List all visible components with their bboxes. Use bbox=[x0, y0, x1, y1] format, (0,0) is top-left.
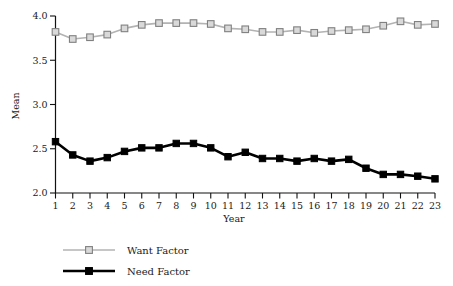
series-marker bbox=[294, 27, 301, 34]
series-marker bbox=[190, 140, 196, 146]
series-marker bbox=[346, 156, 352, 162]
chart-legend: Want FactorNeed Factor bbox=[63, 245, 190, 277]
x-tick-label: 11 bbox=[222, 200, 234, 211]
series-marker bbox=[208, 145, 214, 151]
series-line bbox=[56, 142, 436, 179]
y-tick-label: 3.5 bbox=[32, 55, 47, 66]
series-marker bbox=[259, 29, 266, 36]
x-tick-label: 9 bbox=[190, 200, 196, 211]
x-tick-label: 23 bbox=[429, 200, 441, 211]
series-marker bbox=[121, 148, 127, 154]
series-marker bbox=[432, 176, 438, 182]
x-tick-label: 14 bbox=[274, 200, 286, 211]
y-axis-ticks bbox=[50, 16, 56, 193]
series-marker bbox=[52, 29, 59, 36]
series-marker bbox=[397, 18, 404, 25]
series-marker bbox=[87, 158, 93, 164]
series-marker bbox=[121, 25, 128, 32]
x-tick-label: 7 bbox=[156, 200, 162, 211]
x-tick-label: 2 bbox=[70, 200, 76, 211]
series-marker bbox=[277, 155, 283, 161]
series-marker bbox=[311, 30, 318, 37]
y-tick-label: 3.0 bbox=[32, 99, 47, 110]
y-axis-title: Mean bbox=[10, 92, 21, 119]
x-tick-label: 8 bbox=[173, 200, 179, 211]
chart-series-need-factor bbox=[52, 138, 438, 182]
series-marker bbox=[52, 138, 58, 144]
legend-label: Want Factor bbox=[127, 245, 189, 256]
series-marker bbox=[328, 28, 335, 35]
series-marker bbox=[104, 31, 111, 38]
legend-marker-swatch bbox=[86, 247, 93, 254]
y-axis-tick-labels: 2.02.53.03.54.0 bbox=[32, 10, 47, 198]
x-tick-label: 15 bbox=[291, 200, 303, 211]
x-tick-label: 20 bbox=[377, 200, 389, 211]
series-marker bbox=[345, 27, 352, 34]
series-marker bbox=[259, 155, 265, 161]
series-marker bbox=[294, 158, 300, 164]
x-tick-label: 5 bbox=[121, 200, 127, 211]
legend-item-want-factor[interactable]: Want Factor bbox=[63, 245, 189, 256]
x-tick-label: 3 bbox=[87, 200, 93, 211]
x-tick-label: 19 bbox=[360, 200, 372, 211]
x-axis-title: Year bbox=[222, 213, 245, 224]
series-marker bbox=[173, 140, 179, 146]
series-marker bbox=[156, 145, 162, 151]
series-marker bbox=[380, 22, 387, 29]
y-tick-label: 2.0 bbox=[32, 187, 47, 198]
y-tick-label: 4.0 bbox=[32, 10, 47, 21]
x-tick-label: 18 bbox=[343, 200, 355, 211]
series-marker bbox=[104, 154, 110, 160]
series-marker bbox=[190, 20, 197, 27]
series-marker bbox=[242, 26, 249, 33]
series-marker bbox=[242, 149, 248, 155]
x-tick-label: 17 bbox=[325, 200, 337, 211]
chart-series-want-factor bbox=[52, 18, 438, 42]
series-marker bbox=[173, 20, 180, 27]
legend-label: Need Factor bbox=[127, 266, 190, 277]
series-marker bbox=[415, 173, 421, 179]
series-marker bbox=[225, 25, 232, 32]
x-tick-label: 6 bbox=[139, 200, 145, 211]
series-marker bbox=[70, 152, 76, 158]
series-marker bbox=[225, 154, 231, 160]
chart-series-layer bbox=[52, 18, 438, 182]
x-tick-label: 12 bbox=[239, 200, 251, 211]
series-marker bbox=[156, 20, 163, 27]
series-marker bbox=[87, 34, 94, 41]
x-tick-label: 1 bbox=[52, 200, 58, 211]
x-tick-label: 22 bbox=[412, 200, 424, 211]
x-axis-ticks bbox=[56, 193, 436, 199]
series-marker bbox=[69, 36, 76, 43]
series-marker bbox=[432, 21, 439, 28]
x-axis-tick-labels: 1234567891011121314151617181920212223 bbox=[52, 200, 441, 211]
series-marker bbox=[363, 165, 369, 171]
x-tick-label: 13 bbox=[256, 200, 268, 211]
y-tick-label: 2.5 bbox=[32, 143, 47, 154]
x-tick-label: 10 bbox=[205, 200, 217, 211]
x-tick-label: 16 bbox=[308, 200, 320, 211]
x-tick-label: 21 bbox=[394, 200, 406, 211]
series-marker bbox=[311, 155, 317, 161]
series-marker bbox=[380, 171, 386, 177]
series-marker bbox=[414, 22, 421, 29]
series-marker bbox=[363, 26, 370, 33]
series-marker bbox=[139, 145, 145, 151]
series-marker bbox=[397, 171, 403, 177]
chart-axes bbox=[56, 16, 436, 193]
series-marker bbox=[207, 21, 214, 28]
series-marker bbox=[276, 29, 283, 36]
line-chart-svg: 2.02.53.03.54.0 123456789101112131415161… bbox=[0, 0, 453, 286]
legend-marker-swatch bbox=[86, 268, 93, 275]
series-marker bbox=[328, 158, 334, 164]
chart-container: 2.02.53.03.54.0 123456789101112131415161… bbox=[0, 0, 453, 286]
series-marker bbox=[138, 22, 145, 29]
legend-item-need-factor[interactable]: Need Factor bbox=[63, 266, 190, 277]
x-tick-label: 4 bbox=[104, 200, 110, 211]
